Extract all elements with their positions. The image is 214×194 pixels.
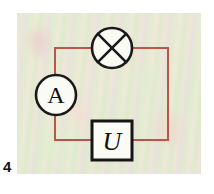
diagram-panel (17, 13, 201, 174)
circuit-figure: A U 4 (0, 0, 214, 194)
figure-number-label: 4 (3, 159, 11, 174)
